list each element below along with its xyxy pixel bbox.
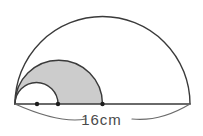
geometry-figure: 16cm [0,0,203,136]
point-small-center-dot [35,102,39,106]
point-small-end-dot [56,102,60,106]
dimension-label: 16cm [0,111,203,128]
point-medium-end-dot [100,102,104,106]
